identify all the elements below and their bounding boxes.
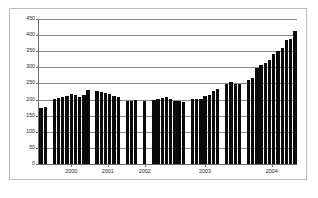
x-tick-label: 2002 xyxy=(139,169,151,174)
x-tick-label: 2000 xyxy=(65,169,77,174)
bar xyxy=(195,99,198,164)
bar xyxy=(216,89,219,164)
bar xyxy=(156,99,159,164)
bar xyxy=(264,63,267,164)
bar xyxy=(177,101,180,164)
bar xyxy=(108,94,111,164)
bar xyxy=(130,101,133,164)
bar xyxy=(247,80,250,164)
bar xyxy=(61,97,64,164)
bar xyxy=(104,93,107,164)
bar xyxy=(182,102,185,164)
x-tick-mark xyxy=(272,164,273,167)
chart-screenshot: 450400350300250200150100500 200020012002… xyxy=(0,0,318,198)
bar xyxy=(191,99,194,164)
bar xyxy=(39,108,42,164)
bar xyxy=(112,96,115,164)
y-tick-label: 450 xyxy=(26,16,35,21)
bar xyxy=(199,99,202,164)
bar xyxy=(143,101,146,164)
y-tick-label: 150 xyxy=(26,113,35,118)
bar xyxy=(161,98,164,164)
bars-layer xyxy=(39,19,297,164)
y-tick-label: 350 xyxy=(26,49,35,54)
bar xyxy=(293,31,296,164)
bar xyxy=(169,99,172,164)
bar xyxy=(100,92,103,164)
bar xyxy=(173,101,176,164)
y-tick-label: 250 xyxy=(26,81,35,86)
bar xyxy=(203,96,206,164)
bar xyxy=(65,96,68,164)
bar xyxy=(57,98,60,164)
x-tick-label: 2003 xyxy=(199,169,211,174)
bar xyxy=(229,82,232,164)
bar xyxy=(212,91,215,164)
x-tick-label: 2004 xyxy=(266,169,278,174)
bar xyxy=(82,95,85,164)
bar xyxy=(78,97,81,164)
x-tick-label: 2001 xyxy=(102,169,114,174)
bar xyxy=(95,91,98,164)
bar xyxy=(285,40,288,164)
bar xyxy=(126,101,129,164)
bar xyxy=(117,97,120,164)
bar xyxy=(268,60,271,164)
bar xyxy=(152,100,155,164)
y-tick-label: 100 xyxy=(26,129,35,134)
bar xyxy=(289,39,292,164)
bar xyxy=(134,100,137,164)
bar xyxy=(74,95,77,164)
bar xyxy=(53,99,56,164)
x-tick-mark xyxy=(145,164,146,167)
bar xyxy=(208,95,211,164)
bar xyxy=(234,84,237,164)
x-tick-mark xyxy=(108,164,109,167)
bar xyxy=(255,68,258,164)
bar xyxy=(251,78,254,164)
y-tick-label: 200 xyxy=(26,97,35,102)
y-tick-label: 400 xyxy=(26,33,35,38)
bar xyxy=(259,65,262,164)
bar xyxy=(44,107,47,164)
bar xyxy=(238,84,241,164)
bar xyxy=(70,94,73,164)
plot-area: 450400350300250200150100500 200020012002… xyxy=(38,19,297,165)
bar xyxy=(86,90,89,164)
bar xyxy=(165,97,168,164)
y-tick-mark xyxy=(36,164,39,165)
bar xyxy=(272,54,275,164)
bar xyxy=(281,48,284,164)
y-tick-label: 50 xyxy=(29,145,35,150)
chart-frame: 450400350300250200150100500 200020012002… xyxy=(9,8,307,180)
bar xyxy=(276,51,279,164)
x-tick-mark xyxy=(71,164,72,167)
x-tick-mark xyxy=(205,164,206,167)
y-tick-label: 0 xyxy=(32,161,35,166)
y-tick-label: 300 xyxy=(26,65,35,70)
bar xyxy=(225,84,228,164)
